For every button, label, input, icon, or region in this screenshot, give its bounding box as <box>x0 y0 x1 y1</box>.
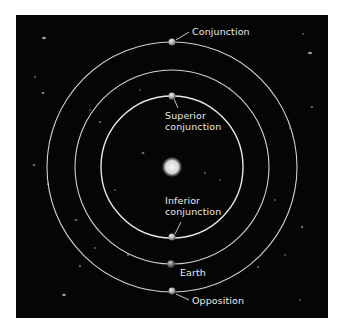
outer-planet-opposition-icon <box>169 288 176 295</box>
label-inferior-conjunction: Inferior conjunction <box>165 195 221 217</box>
outer-planet-conjunction-icon <box>168 38 175 45</box>
label-earth: Earth <box>180 267 206 278</box>
inner-planet-superior-icon <box>168 92 175 99</box>
label-superior-line2: conjunction <box>165 121 221 132</box>
orbit-diagram <box>0 0 339 330</box>
label-conjunction: Conjunction <box>192 26 250 37</box>
label-inferior-line2: conjunction <box>165 206 221 217</box>
sun-icon <box>162 157 182 177</box>
label-superior-conjunction: Superior conjunction <box>165 110 221 132</box>
label-opposition: Opposition <box>192 295 244 306</box>
label-inferior-line1: Inferior <box>165 195 221 206</box>
earth-icon <box>167 260 175 268</box>
inner-planet-inferior-icon <box>168 233 175 240</box>
label-superior-line1: Superior <box>165 110 221 121</box>
